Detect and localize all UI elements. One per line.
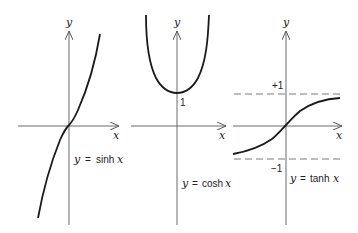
sinh-y-axis-label: y xyxy=(65,16,73,29)
hyperbolic-functions-figure: y x y = sinh x y x 1 y = cosh x y x +1 − xyxy=(0,0,358,233)
tanh-upper-asymptote-label: +1 xyxy=(272,80,284,91)
svg-text:=: = xyxy=(85,154,91,165)
tanh-lower-asymptote-label: −1 xyxy=(271,163,283,174)
tanh-y-axis-label: y xyxy=(282,16,290,29)
tanh-panel: y x +1 −1 y = tanh x xyxy=(233,16,343,225)
cosh-y-axis-label: y xyxy=(173,16,181,29)
svg-text:x: x xyxy=(117,153,124,166)
svg-text:x: x xyxy=(225,177,232,190)
cosh-intercept-label: 1 xyxy=(180,97,186,108)
svg-text:x: x xyxy=(333,172,340,185)
svg-text:tanh: tanh xyxy=(310,173,329,184)
cosh-caption: y = cosh x xyxy=(181,177,232,190)
sinh-x-axis-label: x xyxy=(113,129,120,142)
tanh-caption: y = tanh x xyxy=(289,172,340,185)
cosh-panel: y x 1 y = cosh x xyxy=(131,15,232,225)
tanh-x-axis-label: x xyxy=(336,129,343,142)
svg-text:=: = xyxy=(300,173,306,184)
sinh-panel: y x y = sinh x xyxy=(18,16,124,225)
svg-text:y: y xyxy=(181,177,189,190)
sinh-caption: y = sinh x xyxy=(73,153,124,166)
svg-text:=: = xyxy=(192,178,198,189)
svg-text:y: y xyxy=(289,172,297,185)
svg-text:y: y xyxy=(73,153,81,166)
cosh-x-axis-label: x xyxy=(219,129,226,142)
svg-text:cosh: cosh xyxy=(202,178,223,189)
svg-text:sinh: sinh xyxy=(96,154,114,165)
